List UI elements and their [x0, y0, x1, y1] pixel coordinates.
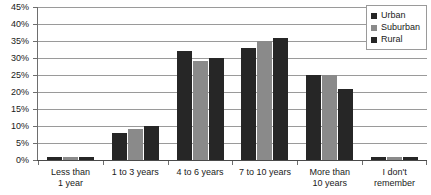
- y-tick-label: 0%: [16, 156, 29, 165]
- bar: [273, 38, 288, 160]
- x-tick-mark: [168, 161, 169, 165]
- x-axis-label-line: 1 year: [39, 178, 102, 189]
- bar: [241, 48, 256, 160]
- x-axis-label: More than10 years: [297, 167, 362, 189]
- bar: [322, 75, 337, 160]
- x-axis-label: 7 to 10 years: [232, 167, 297, 189]
- y-tick-mark: [33, 24, 37, 25]
- bar: [306, 75, 321, 160]
- y-tick-label: 10%: [11, 122, 29, 131]
- bar-group: [168, 7, 233, 160]
- y-tick-label: 45%: [11, 3, 29, 12]
- y-tick-mark: [33, 7, 37, 8]
- legend-item[interactable]: Rural: [371, 34, 420, 45]
- x-tick-mark: [362, 161, 363, 165]
- x-tick-mark: [426, 161, 427, 165]
- x-axis-label-line: remember: [363, 178, 426, 189]
- y-tick-mark: [33, 41, 37, 42]
- bar-group: [38, 7, 103, 160]
- y-tick-mark: [33, 160, 37, 161]
- x-axis-label: 1 to 3 years: [103, 167, 168, 189]
- x-axis-label-line: 1 to 3 years: [104, 167, 167, 178]
- x-axis-label: I don'tremember: [362, 167, 427, 189]
- x-axis-label-line: 4 to 6 years: [169, 167, 232, 178]
- bar: [79, 157, 94, 160]
- x-tick-cell: [168, 161, 233, 165]
- legend: UrbanSuburbanRural: [366, 5, 427, 50]
- legend-swatch-icon: [371, 25, 377, 31]
- bar-chart: 45%40%35%30%25%20%15%10%5%0% Less than1 …: [0, 0, 431, 195]
- bar: [128, 129, 143, 160]
- legend-item[interactable]: Suburban: [371, 22, 420, 33]
- bar: [403, 157, 418, 160]
- y-tick-mark: [33, 92, 37, 93]
- x-axis-ticks: [38, 161, 427, 165]
- bar: [193, 61, 208, 160]
- x-tick-cell: [297, 161, 362, 165]
- y-tick-mark: [33, 75, 37, 76]
- x-axis-label: Less than1 year: [38, 167, 103, 189]
- y-tick-label: 5%: [16, 139, 29, 148]
- x-axis-labels: Less than1 year1 to 3 years4 to 6 years7…: [38, 167, 427, 189]
- x-tick-mark: [297, 161, 298, 165]
- y-axis: 45%40%35%30%25%20%15%10%5%0%: [0, 0, 33, 195]
- y-tick-label: 15%: [11, 105, 29, 114]
- y-tick-label: 35%: [11, 37, 29, 46]
- x-tick-cell: [103, 161, 168, 165]
- bar-group: [103, 7, 168, 160]
- legend-label: Suburban: [381, 23, 420, 32]
- y-tick-mark: [33, 143, 37, 144]
- bar: [177, 51, 192, 160]
- y-tick-mark: [33, 58, 37, 59]
- x-tick-mark: [232, 161, 233, 165]
- bar-group: [232, 7, 297, 160]
- bar: [144, 126, 159, 160]
- y-tick-mark: [33, 109, 37, 110]
- y-tick-label: 40%: [11, 20, 29, 29]
- x-axis-label-line: 10 years: [298, 178, 361, 189]
- bar: [63, 157, 78, 160]
- legend-swatch-icon: [371, 13, 377, 19]
- y-tick-label: 25%: [11, 71, 29, 80]
- x-axis-label-line: 7 to 10 years: [233, 167, 296, 178]
- x-tick-cell: [232, 161, 297, 165]
- x-tick-cell: [362, 161, 427, 165]
- bar-group: [297, 7, 362, 160]
- x-axis-label: 4 to 6 years: [168, 167, 233, 189]
- y-tick-label: 20%: [11, 88, 29, 97]
- bar: [371, 157, 386, 160]
- bar: [47, 157, 62, 160]
- x-axis-label-line: Less than: [39, 167, 102, 178]
- x-tick-cell: [38, 161, 103, 165]
- legend-label: Rural: [381, 35, 403, 44]
- bar: [338, 89, 353, 160]
- bar: [257, 41, 272, 160]
- y-tick-mark: [33, 126, 37, 127]
- x-tick-mark: [103, 161, 104, 165]
- y-tick-label: 30%: [11, 54, 29, 63]
- bar: [112, 133, 127, 160]
- x-tick-mark: [38, 161, 39, 165]
- legend-label: Urban: [381, 11, 406, 20]
- x-axis-label-line: More than: [298, 167, 361, 178]
- bar: [209, 58, 224, 160]
- bar: [387, 157, 402, 160]
- legend-swatch-icon: [371, 37, 377, 43]
- legend-item[interactable]: Urban: [371, 10, 420, 21]
- x-axis-label-line: I don't: [363, 167, 426, 178]
